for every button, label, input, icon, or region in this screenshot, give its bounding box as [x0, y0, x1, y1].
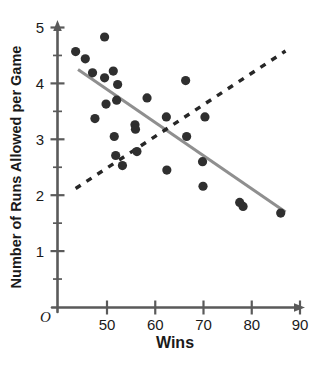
data-point: [90, 114, 99, 123]
y-tick-label-2: 2: [36, 187, 44, 204]
data-point: [276, 208, 285, 217]
y-tick-label-1: 1: [36, 243, 44, 260]
origin-label: O: [40, 309, 51, 325]
data-point: [132, 147, 141, 156]
x-tick-labels: 5060708090: [99, 316, 309, 333]
x-tick-label-70: 70: [195, 316, 212, 333]
data-point: [109, 67, 118, 76]
data-point: [181, 76, 190, 85]
chart-canvas: 12345 5060708090 O Wins Number of Runs A…: [0, 0, 321, 367]
y-tick-label-3: 3: [36, 131, 44, 148]
data-point: [101, 99, 110, 108]
solid-trend-line: [78, 69, 285, 212]
data-point: [131, 125, 140, 134]
data-point: [118, 161, 127, 170]
x-tick-label-80: 80: [243, 316, 260, 333]
data-point: [81, 54, 90, 63]
x-tick-label-60: 60: [147, 316, 164, 333]
data-point: [142, 93, 151, 102]
data-point: [88, 68, 97, 77]
data-point: [100, 73, 109, 82]
x-tick-label-90: 90: [292, 316, 309, 333]
data-point: [182, 132, 191, 141]
x-tick-label-50: 50: [99, 316, 116, 333]
scatter-plot-figure: 12345 5060708090 O Wins Number of Runs A…: [0, 0, 321, 367]
data-point: [110, 132, 119, 141]
data-point: [162, 112, 171, 121]
x-axis-title: Wins: [156, 334, 194, 351]
y-axis-title: Number of Runs Allowed per Game: [8, 46, 24, 289]
dashed-trend-line: [76, 51, 286, 189]
data-point: [113, 80, 122, 89]
y-tick-label-4: 4: [36, 75, 44, 92]
y-tick-labels: 12345: [36, 19, 44, 260]
axes-group: [52, 20, 305, 312]
data-point: [71, 47, 80, 56]
data-point: [198, 182, 207, 191]
data-point: [112, 96, 121, 105]
data-point: [198, 157, 207, 166]
y-axis-arrowhead: [53, 20, 62, 31]
data-point: [200, 112, 209, 121]
data-point: [238, 202, 247, 211]
data-point: [111, 151, 120, 160]
data-point: [162, 165, 171, 174]
y-tick-label-5: 5: [36, 19, 44, 36]
data-point: [100, 32, 109, 41]
